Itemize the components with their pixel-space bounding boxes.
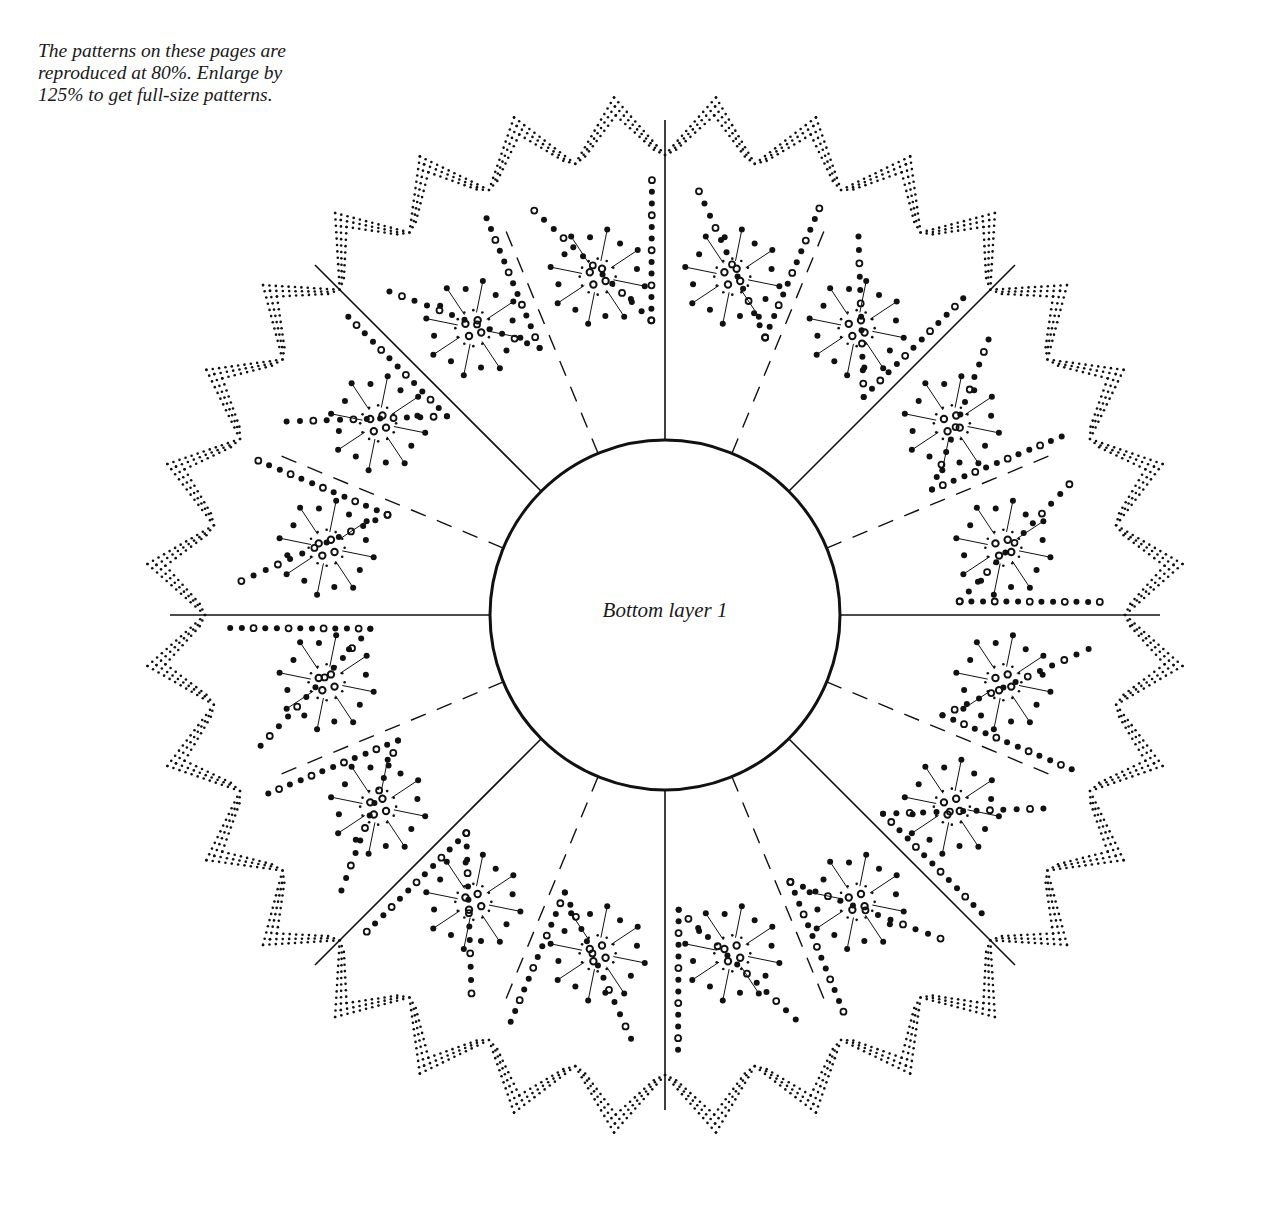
center-label: Bottom layer 1 (565, 598, 765, 623)
